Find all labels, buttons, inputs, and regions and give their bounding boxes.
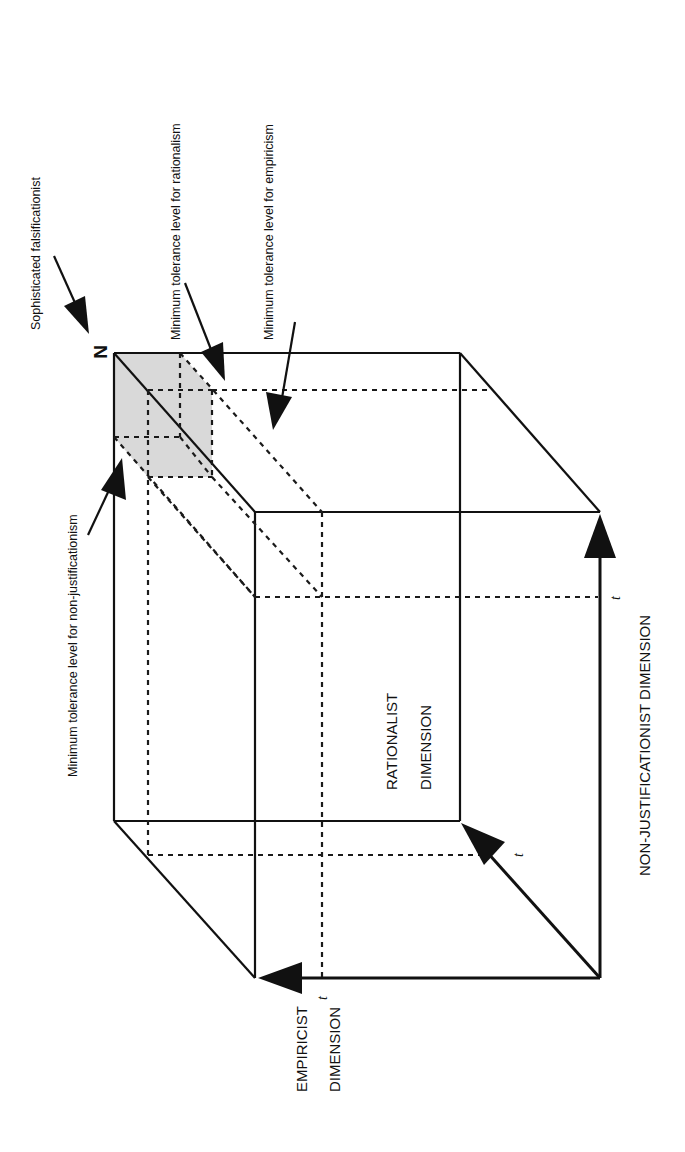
label-min-tolerance-rationalism: Minimum tolerance level for rationalism <box>169 123 183 340</box>
label-min-tolerance-non-justificationism: Minimum tolerance level for non-justific… <box>66 514 80 777</box>
rationalist-arrowhead-icon <box>461 823 505 865</box>
tolerance-level-dashed-lines <box>114 353 598 978</box>
label-empiricist-dimension-line1: EMPIRICIST <box>293 1006 310 1092</box>
empiricist-arrowhead-icon <box>258 962 302 994</box>
label-sophisticated-falsificationist: Sophisticated falsificationist <box>29 177 43 330</box>
axis-lines <box>275 535 600 978</box>
sophisticated-falsificationist-region <box>114 353 212 477</box>
label-non-justificationist-dimension: NON-JUSTIFICATIONIST DIMENSION <box>636 615 653 876</box>
non-justificationist-threshold-t: t <box>608 595 623 600</box>
empiricist-threshold-t: t <box>315 995 330 1000</box>
sophisticated-arrow-icon <box>64 296 89 334</box>
rationalist-threshold-t: t <box>511 852 526 857</box>
label-rationalist-dimension-line1: RATIONALIST <box>383 693 400 790</box>
rationalism-arrow-icon <box>201 342 225 381</box>
label-min-tolerance-empiricism: Minimum tolerance level for empiricism <box>262 124 276 340</box>
label-rationalist-dimension-line2: DIMENSION <box>417 705 434 790</box>
corner-label-n: N <box>90 345 111 359</box>
three-dimension-cube-diagram: N Sophisticated falsificationist Minimum… <box>0 0 685 1152</box>
label-empiricist-dimension-line2: DIMENSION <box>326 1007 343 1092</box>
empiricism-arrow-icon <box>266 392 292 430</box>
non-justificationist-arrowhead-icon <box>584 514 616 558</box>
axis-arrowheads <box>258 514 616 994</box>
